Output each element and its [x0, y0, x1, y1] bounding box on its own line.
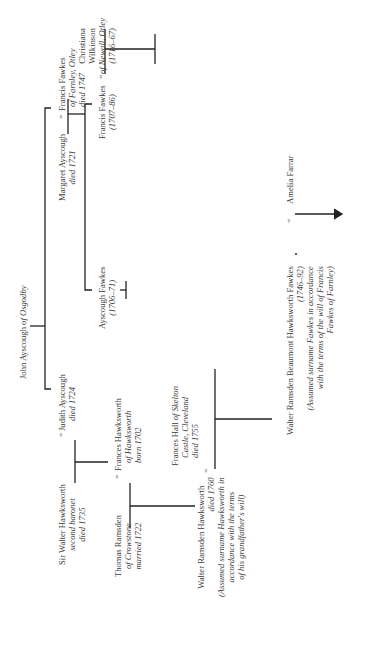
person-francis-fawkes-jr: Francis Fawkes (1707–86)	[97, 85, 117, 139]
person-christiana-wilkinson: Christiana Wilkinson of Newall, Otley (1…	[77, 18, 117, 74]
person-ayscough-fawkes: Ayscough Fawkes (1706–71)	[97, 267, 117, 329]
marriage-sign: =	[97, 74, 106, 79]
descent-arrow-head	[334, 209, 342, 219]
marriage-sign: =	[57, 114, 66, 119]
person-walter-rbh-fawkes: Walter Ramsden Beaumont Hawksworth Fawke…	[285, 266, 335, 435]
person-frances-hall: Frances Hall of Skelton Castle, Clevelan…	[170, 386, 200, 466]
fawkes-children-bracket	[85, 104, 92, 290]
person-john-ayscough: John Ayscough of Osgodby	[18, 285, 28, 379]
person-margaret-ayscough: Margaret Ayscough died 1721	[57, 134, 77, 201]
family-tree: John Ayscough of Osgodby Sir Walter Hawk…	[0, 0, 371, 659]
person-walter-hawksworth: Sir Walter Hawksworth second baronet die…	[57, 484, 87, 565]
john-children-bracket	[45, 108, 51, 389]
marriage-sign: =	[285, 218, 294, 223]
marriage-sign: =	[113, 474, 122, 479]
person-walter-ramsden-hawksworth: Walter Ramsden Hawksworth died 1760 (Ass…	[196, 477, 246, 597]
person-judith-ayscough: Judith Ayscough died 1724	[57, 374, 77, 431]
person-frances-hawksworth: Frances Hawksworth of Hawksworth born 17…	[113, 398, 143, 471]
person-thomas-ramsden: Thomas Ramsden of Crowstone married 1722	[113, 515, 143, 577]
marriage-sign: =	[57, 432, 66, 437]
marriage-sign: =	[202, 468, 211, 473]
person-amelia-farrar: Amelia Farrar	[285, 156, 295, 204]
